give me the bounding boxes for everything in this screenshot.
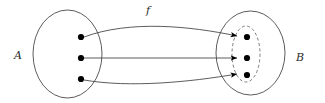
- set-mapping-figure: A B f: [0, 0, 325, 103]
- codomain-point-b3: [244, 72, 250, 78]
- domain-set-outline: [33, 10, 102, 98]
- codomain-set-outline: [216, 11, 285, 95]
- domain-set-label: A: [13, 49, 22, 62]
- domain-point-a3: [78, 76, 84, 82]
- codomain-point-b1: [244, 34, 250, 40]
- domain-point-a2: [78, 55, 84, 61]
- map-function-label: f: [145, 4, 152, 17]
- arrow-a1-to-b1: [84, 26, 237, 37]
- domain-point-a1: [78, 34, 84, 40]
- arrow-a3-to-b3: [84, 74, 237, 84]
- codomain-point-b2: [244, 55, 250, 61]
- codomain-set-label: B: [295, 51, 304, 64]
